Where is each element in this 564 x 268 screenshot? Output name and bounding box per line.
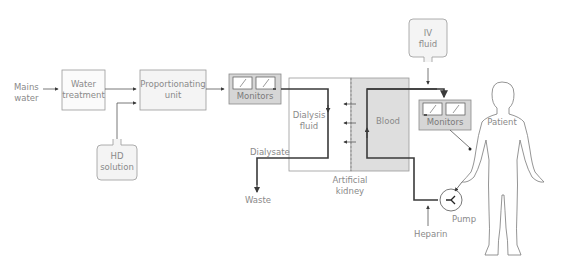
water-treatment-label: Watertreatment [62,79,105,101]
patient-label: Patient [482,117,522,128]
hd-solution-label: HDsolution [97,151,137,173]
dialysate-label: Dialysate [250,147,290,158]
dialysis-diagram [0,0,564,268]
hd-solution-line [117,103,136,140]
iv-fluid-label: IVfluid [409,28,447,50]
patient-figure [462,82,544,255]
gauge-icon [423,103,442,115]
gauge-icon [446,103,465,115]
monitors-dialysate-label: Monitors [229,91,281,102]
proportionating-unit-label: Proportionatingunit [140,79,206,101]
dialysis-fluid-label: Dialysisfluid [290,110,328,132]
pump-label: Pump [452,214,476,225]
monitors-blood-label: Monitors [419,117,471,128]
gauge-icon [233,77,252,89]
heparin-label: Heparin [414,229,447,240]
gauge-icon [256,77,275,89]
artificial-kidney-label: Artificialkidney [325,175,375,197]
blood-label: Blood [370,116,406,127]
mains-water-label: Mainswater [14,82,39,104]
waste-label: Waste [245,195,271,206]
